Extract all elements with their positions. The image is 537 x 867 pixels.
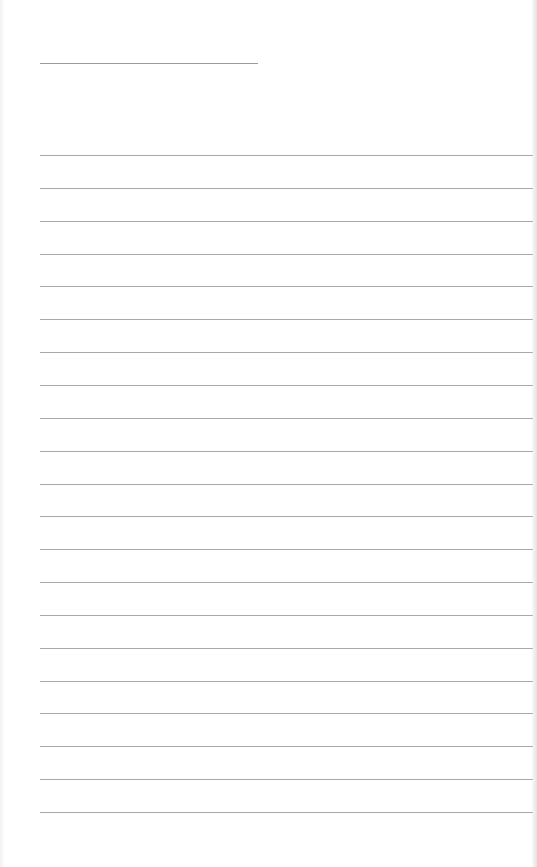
ruled-line (40, 516, 533, 517)
page-right-edge-shadow (531, 0, 537, 867)
page-left-edge-shadow (0, 0, 5, 867)
ruled-line (40, 779, 533, 780)
ruled-line (40, 615, 533, 616)
ruled-line (40, 352, 533, 353)
ruled-line (40, 681, 533, 682)
ruled-line (40, 451, 533, 452)
ruled-line (40, 582, 533, 583)
ruled-line (40, 746, 533, 747)
ruled-line (40, 713, 533, 714)
ruled-line (40, 188, 533, 189)
ruled-line (40, 221, 533, 222)
ruled-line (40, 484, 533, 485)
ruled-line (40, 385, 533, 386)
ruled-line (40, 155, 533, 156)
ruled-line (40, 418, 533, 419)
lined-page (0, 0, 537, 867)
ruled-line (40, 319, 533, 320)
ruled-line (40, 648, 533, 649)
ruled-line (40, 549, 533, 550)
ruled-line (40, 286, 533, 287)
ruled-line (40, 254, 533, 255)
title-line (40, 63, 258, 64)
ruled-line (40, 812, 533, 813)
